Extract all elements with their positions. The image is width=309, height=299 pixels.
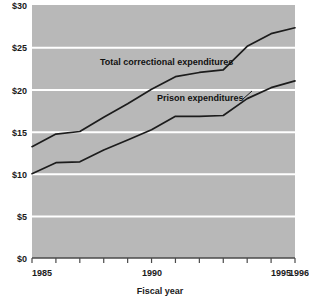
y-tick-label-15: $15 — [12, 128, 27, 138]
series-annotation-prison: Prison expenditures — [157, 93, 244, 103]
x-tick-label-1996: 1996 — [289, 268, 309, 278]
line-chart: Total correctional expenditures Prison e… — [0, 0, 309, 299]
y-tick-label-20: $20 — [12, 86, 27, 96]
y-tick-label-10: $10 — [12, 170, 27, 180]
x-tick-label-1990: 1990 — [142, 268, 162, 278]
x-axis-ticks — [32, 258, 295, 263]
x-axis-labels: 1985 1990 1995 1996 — [32, 268, 309, 278]
x-axis-title: Fiscal year — [137, 286, 184, 296]
y-tick-label-5: $5 — [17, 212, 27, 222]
y-tick-label-0: $0 — [17, 254, 27, 264]
chart-container: Total correctional expenditures Prison e… — [0, 0, 309, 299]
y-axis-labels: $30 $25 $20 $15 $10 $5 $0 — [12, 1, 27, 264]
y-tick-label-30: $30 — [12, 1, 27, 11]
x-tick-label-1985: 1985 — [32, 268, 52, 278]
y-tick-label-25: $25 — [12, 43, 27, 53]
series-annotation-total: Total correctional expenditures — [100, 57, 233, 67]
